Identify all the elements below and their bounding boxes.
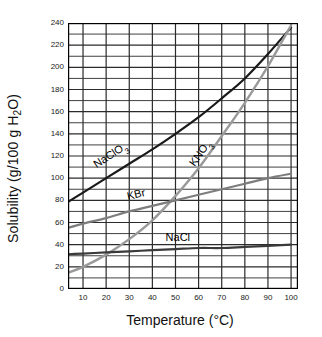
x-tick-label: 60 bbox=[187, 294, 211, 302]
y-tick-label: 200 bbox=[38, 63, 64, 71]
x-tick-label: 90 bbox=[256, 294, 280, 302]
x-tick-label: 20 bbox=[94, 294, 118, 302]
curve-label-nacl: NaCl bbox=[166, 231, 190, 243]
y-tick-label: 220 bbox=[38, 41, 64, 49]
plot-area: NaClO3KNO3KBrNaCl bbox=[68, 23, 298, 289]
y-axis-title: Solubility (g/100 g H2O) bbox=[0, 0, 26, 337]
y-axis-title-text: Solubility (g/100 g H2O) bbox=[5, 94, 21, 243]
x-tick-label: 30 bbox=[117, 294, 141, 302]
x-axis-tick-labels: 102030405060708090100 bbox=[0, 292, 322, 306]
x-tick-label: 40 bbox=[140, 294, 164, 302]
x-tick-label: 80 bbox=[233, 294, 257, 302]
y-tick-label: 140 bbox=[38, 130, 64, 138]
x-axis-title-text: Temperature (°C) bbox=[126, 312, 234, 328]
y-tick-label: 240 bbox=[38, 19, 64, 27]
x-tick-label: 70 bbox=[210, 294, 234, 302]
y-tick-label: 100 bbox=[38, 174, 64, 182]
y-tick-label: 120 bbox=[38, 152, 64, 160]
x-tick-label: 50 bbox=[163, 294, 187, 302]
x-tick-label: 100 bbox=[279, 294, 303, 302]
x-tick-label: 10 bbox=[71, 294, 95, 302]
y-tick-label: 160 bbox=[38, 108, 64, 116]
solubility-chart-figure: Solubility (g/100 g H2O) 020406080100120… bbox=[0, 0, 322, 337]
y-tick-label: 60 bbox=[38, 219, 64, 227]
y-tick-label: 180 bbox=[38, 86, 64, 94]
y-tick-label: 40 bbox=[38, 241, 64, 249]
y-tick-label: 20 bbox=[38, 263, 64, 271]
x-axis-title: Temperature (°C) bbox=[55, 309, 305, 331]
y-axis-tick-labels: 020406080100120140160180200220240 bbox=[32, 0, 64, 337]
y-tick-label: 80 bbox=[38, 196, 64, 204]
